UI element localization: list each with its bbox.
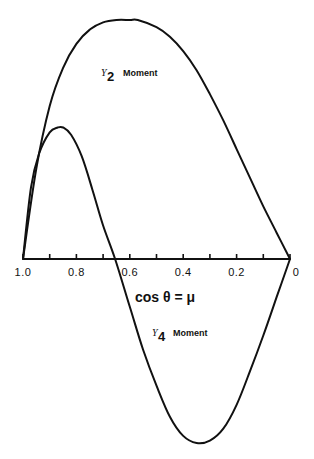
x-axis-tick-labels: 1.00.80.60.40.20 <box>15 266 300 278</box>
y2-label-text: Moment <box>123 68 158 78</box>
y2-moment-curve <box>23 19 290 259</box>
y4-label-subscript: 4 <box>158 329 166 344</box>
y4-moment-curve <box>23 127 290 443</box>
y4-label-text: Moment <box>173 328 208 338</box>
x-tick-label: 0.8 <box>68 266 85 278</box>
series-curves <box>23 19 290 443</box>
x-tick-label: 0.4 <box>175 266 192 278</box>
y4-series-label: Y 4 Moment <box>152 327 208 344</box>
x-tick-label: 1.0 <box>15 266 32 278</box>
x-axis-label: cos θ = μ <box>135 289 195 305</box>
y2-label-subscript: 2 <box>107 69 114 84</box>
x-tick-label: 0.2 <box>228 266 245 278</box>
x-axis: 1.00.80.60.40.20 <box>15 254 300 278</box>
x-tick-label: 0.6 <box>121 266 138 278</box>
x-tick-label: 0 <box>293 266 300 278</box>
y2-series-label: Y 2 Moment <box>101 67 158 84</box>
chart-canvas: 1.00.80.60.40.20 cos θ = μ Y 2 Moment Y … <box>0 0 314 459</box>
